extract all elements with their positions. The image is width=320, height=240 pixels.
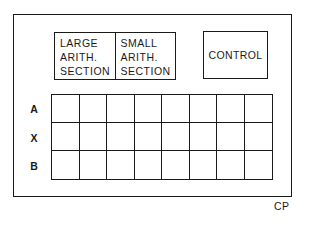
register-cell (107, 123, 135, 151)
large-arith-line-2: ARITH. (60, 50, 115, 64)
register-label-x: X (29, 132, 39, 144)
control-label: CONTROL (208, 49, 262, 61)
register-cell (135, 123, 163, 151)
small-arith-line-3: SECTION (121, 64, 176, 78)
register-cell (52, 95, 80, 123)
register-cell (162, 151, 190, 179)
register-grid (51, 94, 273, 180)
register-cell (190, 151, 218, 179)
small-arith-line-2: ARITH. (121, 50, 176, 64)
register-cell (190, 95, 218, 123)
register-cell (52, 123, 80, 151)
register-cell (245, 123, 273, 151)
small-arith-line-1: SMALL (121, 36, 176, 50)
small-arith-section: SMALL ARITH. SECTION (115, 33, 176, 79)
control-block: CONTROL (203, 31, 268, 79)
register-cell (135, 151, 163, 179)
caption-cp: CP (274, 200, 290, 212)
register-cell (190, 123, 218, 151)
register-cell (217, 123, 245, 151)
register-label-b: B (29, 160, 39, 172)
register-cell (245, 95, 273, 123)
register-cell (162, 123, 190, 151)
large-arith-line-3: SECTION (60, 64, 115, 78)
register-cell (80, 95, 108, 123)
register-cell (52, 151, 80, 179)
register-cell (217, 151, 245, 179)
large-arith-section: LARGE ARITH. SECTION (55, 33, 115, 79)
register-cell (162, 95, 190, 123)
register-cell (80, 123, 108, 151)
register-cell (245, 151, 273, 179)
arithmetic-sections-block: LARGE ARITH. SECTION SMALL ARITH. SECTIO… (54, 32, 176, 80)
large-arith-line-1: LARGE (60, 36, 115, 50)
register-label-a: A (29, 103, 39, 115)
register-cell (107, 151, 135, 179)
register-cell (217, 95, 245, 123)
register-cell (135, 95, 163, 123)
register-cell (107, 95, 135, 123)
register-cell (80, 151, 108, 179)
